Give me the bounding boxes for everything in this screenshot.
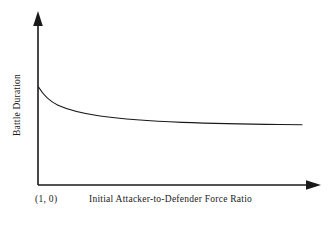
figure-root: Battle Duration Initial Attacker-to-Defe… [0, 0, 336, 225]
x-axis-title: Initial Attacker-to-Defender Force Ratio [89, 195, 252, 205]
battle-duration-curve [39, 87, 303, 125]
y-axis-title: Battle Duration [11, 57, 25, 153]
y-axis-title-label: Battle Duration [13, 74, 23, 136]
y-axis-arrowhead [33, 11, 43, 26]
x-axis-arrowhead [306, 180, 321, 190]
chart-plot-area [0, 0, 336, 225]
origin-annotation: (1, 0) [35, 195, 57, 205]
